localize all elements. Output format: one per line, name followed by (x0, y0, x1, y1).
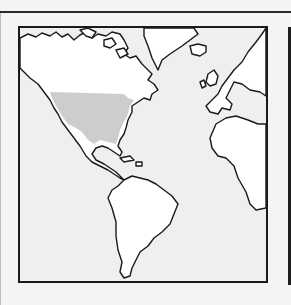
left-page-edge (0, 13, 1, 305)
british-isles-landmass (200, 70, 218, 88)
iceland-landmass (190, 44, 206, 56)
africa-landmass (210, 116, 266, 210)
greenland-landmass (144, 28, 198, 70)
top-divider-line (0, 11, 291, 13)
map-canvas (20, 28, 266, 281)
south-america-landmass (108, 176, 178, 278)
range-map (18, 26, 268, 283)
caribbean-islands (120, 156, 142, 166)
adjacent-panel-border (288, 27, 291, 285)
